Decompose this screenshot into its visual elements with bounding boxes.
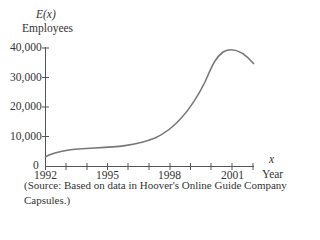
source-note: (Source: Based on data in Hoover's Onlin… xyxy=(24,178,294,208)
y-axis xyxy=(42,47,49,166)
x-axis xyxy=(45,163,254,170)
data-line-employees xyxy=(45,50,254,157)
